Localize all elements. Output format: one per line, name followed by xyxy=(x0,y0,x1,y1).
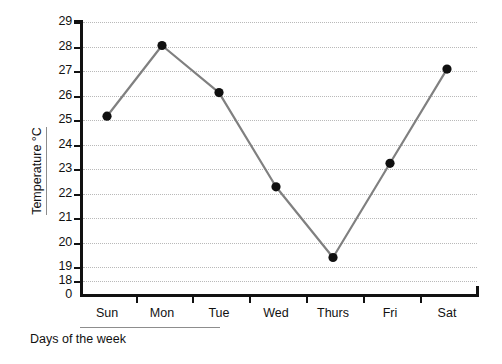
gridline-19 xyxy=(83,267,477,268)
y-tick-label-27: 27 xyxy=(46,64,72,77)
x-tick-5 xyxy=(363,294,365,303)
y-tick-23 xyxy=(74,169,82,171)
gridline-25 xyxy=(83,120,477,121)
y-tick-26 xyxy=(74,96,82,98)
y-tick-label-29: 29 xyxy=(46,15,72,28)
gridline-27 xyxy=(83,71,477,72)
x-tick-2 xyxy=(192,294,194,303)
gridline-21 xyxy=(83,218,477,219)
x-tick-label-sat: Sat xyxy=(417,307,477,320)
gridline-29 xyxy=(83,22,477,23)
gridline-23 xyxy=(83,169,477,170)
gridline-20 xyxy=(83,243,477,244)
y-tick-label-24: 24 xyxy=(46,138,72,151)
gridline-28 xyxy=(83,47,477,48)
y-axis-title: Temperature °C xyxy=(30,127,47,215)
x-tick-label-wed: Wed xyxy=(246,307,306,320)
y-tick-label-21: 21 xyxy=(46,211,72,224)
y-axis-line xyxy=(80,20,83,297)
x-tick-6 xyxy=(420,294,422,303)
data-point-fri xyxy=(385,159,394,168)
y-tick-label-28: 28 xyxy=(46,40,72,53)
x-tick-1 xyxy=(136,294,138,303)
data-point-thurs xyxy=(328,253,337,262)
x-axis-end-cap xyxy=(476,286,479,297)
y-tick-label-20: 20 xyxy=(46,236,72,249)
x-axis-title-rule xyxy=(80,327,220,328)
y-tick-label-18: 18 xyxy=(46,274,72,287)
x-tick-label-mon: Mon xyxy=(132,307,192,320)
y-tick-18 xyxy=(74,281,82,283)
y-tick-25 xyxy=(74,120,82,122)
y-tick-label-23: 23 xyxy=(46,162,72,175)
y-tick-22 xyxy=(74,194,82,196)
y-tick-label-origin: 0 xyxy=(46,288,72,301)
x-axis-title: Days of the week xyxy=(30,332,126,346)
y-tick-19 xyxy=(74,267,82,269)
y-tick-27 xyxy=(74,71,82,73)
series-line-temperature xyxy=(107,46,447,258)
gridline-22 xyxy=(83,194,477,195)
y-tick-20 xyxy=(74,243,82,245)
y-tick-24 xyxy=(74,145,82,147)
series-marker-group xyxy=(102,41,451,262)
y-tick-29 xyxy=(74,22,82,24)
x-tick-4 xyxy=(306,294,308,303)
y-tick-label-25: 25 xyxy=(46,113,72,126)
y-tick-label-26: 26 xyxy=(46,89,72,102)
x-tick-3 xyxy=(249,294,251,303)
gridline-24 xyxy=(83,145,477,146)
x-tick-label-tue: Tue xyxy=(189,307,249,320)
gridline-18 xyxy=(83,281,477,282)
x-tick-label-sun: Sun xyxy=(77,307,137,320)
y-tick-28 xyxy=(74,47,82,49)
gridline-26 xyxy=(83,96,477,97)
x-tick-label-fri: Fri xyxy=(360,307,420,320)
y-axis-title-wrap: Temperature °C xyxy=(27,71,49,271)
data-point-wed xyxy=(271,182,280,191)
y-tick-21 xyxy=(74,218,82,220)
line-chart: 29 28 27 26 25 24 23 22 21 20 19 18 0 Su… xyxy=(0,0,502,364)
y-tick-label-22: 22 xyxy=(46,187,72,200)
y-tick-label-19: 19 xyxy=(46,260,72,273)
data-point-mon xyxy=(157,41,166,50)
data-point-sat xyxy=(442,65,451,74)
x-tick-label-thurs: Thurs xyxy=(303,307,363,320)
